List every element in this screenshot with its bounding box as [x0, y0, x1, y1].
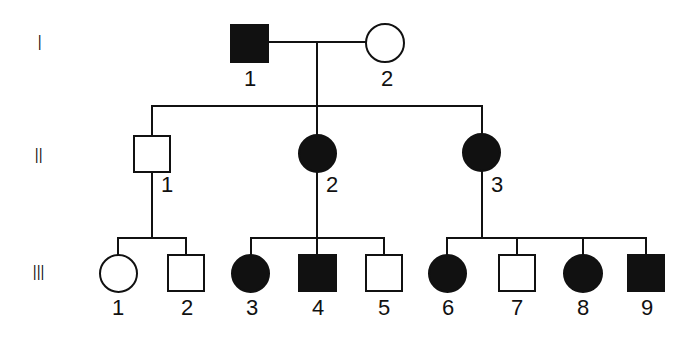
sibship-line-iii-a [117, 237, 187, 239]
individual-iii-8-affected-female[interactable] [563, 254, 603, 293]
individual-i-2-unaffected-female[interactable] [365, 23, 405, 63]
sibship-line-iii-c [446, 237, 647, 239]
individual-label-iii-8: 8 [568, 295, 598, 321]
descent-line-ii-1 [151, 172, 153, 238]
individual-label-iii-1: 1 [103, 295, 133, 321]
individual-label-iii-4: 4 [303, 295, 333, 321]
individual-line-ii-2 [316, 105, 318, 135]
individual-label-ii-2: 2 [317, 172, 347, 198]
individual-line-iii-1 [117, 237, 119, 255]
individual-iii-6-affected-female[interactable] [428, 254, 467, 293]
individual-label-iii-6: 6 [433, 295, 463, 321]
individual-line-iii-5 [383, 237, 385, 255]
individual-iii-3-affected-female[interactable] [231, 254, 270, 293]
individual-line-ii-1 [151, 105, 153, 136]
individual-iii-5-unaffected-male[interactable] [365, 254, 403, 292]
individual-line-iii-7 [516, 237, 518, 255]
descent-line-i [316, 41, 318, 107]
generation-label-i: I [38, 30, 42, 56]
descent-line-ii-3 [481, 171, 483, 238]
individual-iii-7-unaffected-male[interactable] [498, 254, 536, 292]
individual-label-iii-2: 2 [172, 295, 202, 321]
individual-i-1-affected-male[interactable] [230, 24, 269, 63]
individual-label-i-1: 1 [235, 66, 265, 92]
individual-line-iii-6 [446, 237, 448, 255]
individual-line-ii-3 [481, 105, 483, 134]
individual-label-iii-9: 9 [632, 295, 662, 321]
pedigree-diagram: I II III 1 2 1 2 3 1 2 3 4 5 6 7 [0, 0, 689, 339]
individual-line-iii-2 [185, 237, 187, 255]
individual-label-ii-1: 1 [152, 172, 182, 198]
individual-label-iii-3: 3 [237, 295, 267, 321]
individual-iii-1-unaffected-female[interactable] [99, 254, 138, 293]
individual-line-iii-9 [645, 237, 647, 255]
individual-ii-2-affected-female[interactable] [298, 134, 337, 173]
descent-line-ii-2 [316, 172, 318, 238]
individual-line-iii-4 [316, 237, 318, 255]
generation-label-iii: III [33, 260, 45, 286]
individual-iii-9-affected-male[interactable] [627, 254, 665, 292]
individual-iii-2-unaffected-male[interactable] [167, 254, 205, 292]
individual-iii-4-affected-male[interactable] [298, 254, 337, 292]
individual-line-iii-8 [582, 237, 584, 255]
individual-label-i-2: 2 [372, 66, 402, 92]
individual-label-iii-5: 5 [369, 295, 399, 321]
generation-label-ii: II [35, 143, 43, 169]
individual-ii-3-affected-female[interactable] [462, 133, 501, 172]
individual-line-iii-3 [250, 237, 252, 255]
individual-label-iii-7: 7 [502, 295, 532, 321]
mating-line-i [268, 41, 368, 43]
individual-label-ii-3: 3 [482, 172, 512, 198]
individual-ii-1-unaffected-male[interactable] [133, 135, 171, 173]
